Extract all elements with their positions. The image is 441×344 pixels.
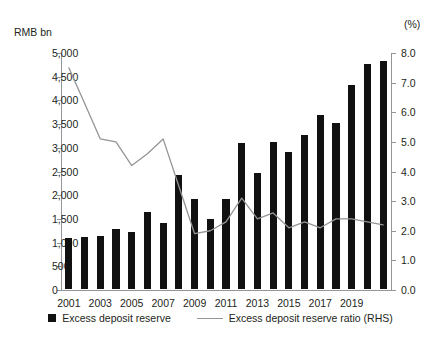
- left-axis-unit-label: RMB bn: [14, 26, 52, 38]
- left-axis-tick-label: 3,000: [52, 143, 53, 154]
- x-axis-tick-label: 2015: [277, 297, 300, 309]
- left-axis-tick-label: 4,000: [52, 95, 53, 106]
- left-axis-tick-label: 3,500: [52, 119, 53, 130]
- right-axis-tick-label: 1.0: [401, 255, 416, 266]
- right-axis-tick-label: 4.0: [401, 166, 416, 177]
- chart-legend: Excess deposit reserve Excess deposit re…: [0, 312, 441, 324]
- right-axis-tick: [392, 201, 396, 202]
- x-axis-tick-label: 2009: [183, 297, 206, 309]
- right-axis-tick: [392, 260, 396, 261]
- left-axis-tick-label: 2,000: [52, 190, 53, 201]
- left-axis-tick-label: 1,000: [52, 237, 53, 248]
- left-axis-tick-label: 500: [52, 261, 53, 272]
- left-axis-tick-label: 5,000: [52, 48, 53, 59]
- right-axis-tick-label: 3.0: [401, 196, 416, 207]
- x-axis-tick-label: 2017: [309, 297, 332, 309]
- line-swatch-icon: [197, 318, 223, 319]
- x-axis-tick-label: 2011: [215, 297, 238, 309]
- right-axis-tick: [392, 83, 396, 84]
- right-axis-tick-label: 7.0: [401, 77, 416, 88]
- right-axis-tick: [392, 53, 396, 54]
- x-axis-tick-label: 2019: [340, 297, 363, 309]
- bar-swatch-icon: [48, 314, 56, 322]
- right-axis-tick: [392, 142, 396, 143]
- x-axis-tick-label: 2001: [57, 297, 80, 309]
- right-axis-tick: [392, 112, 396, 113]
- legend-item-excess-deposit-reserve-ratio: Excess deposit reserve ratio (RHS): [197, 312, 393, 324]
- x-axis-tick-labels: 2001200320052007200920112013201520172019: [61, 297, 391, 313]
- left-axis-tick-label: 1,500: [52, 214, 53, 225]
- right-axis-tick-label: 5.0: [401, 137, 416, 148]
- x-axis-tick-label: 2013: [246, 297, 269, 309]
- right-axis-tick-label: 2.0: [401, 226, 416, 237]
- left-axis-tick-label: 2,500: [52, 166, 53, 177]
- legend-item-excess-deposit-reserve: Excess deposit reserve: [48, 312, 171, 324]
- right-axis-tick-label: 8.0: [401, 48, 416, 59]
- legend-label-bar: Excess deposit reserve: [62, 312, 171, 324]
- right-axis-tick-label: 6.0: [401, 107, 416, 118]
- line-series-excess-deposit-reserve-ratio: [61, 53, 391, 291]
- x-axis-tick-label: 2003: [89, 297, 112, 309]
- ratio-line-path: [69, 68, 383, 234]
- right-axis-unit-label: (%): [404, 18, 420, 30]
- chart-container: RMB bn (%) 05001,0001,5002,0002,5003,000…: [0, 0, 441, 344]
- x-axis-tick-label: 2007: [151, 297, 174, 309]
- plot-area: 05001,0001,5002,0002,5003,0003,5004,0004…: [61, 53, 391, 290]
- right-axis-tick: [392, 290, 396, 291]
- legend-label-line: Excess deposit reserve ratio (RHS): [229, 312, 393, 324]
- left-axis-tick-label: 4,500: [52, 71, 53, 82]
- x-axis-tick-label: 2005: [120, 297, 143, 309]
- right-axis-tick: [392, 231, 396, 232]
- right-axis-tick-label: 0.0: [401, 285, 416, 296]
- right-axis-tick: [392, 172, 396, 173]
- left-axis-tick-label: 0: [52, 285, 53, 296]
